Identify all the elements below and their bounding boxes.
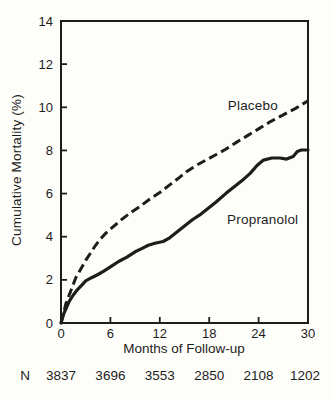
- propranolol-series-label: Propranolol: [227, 212, 298, 227]
- n-at-risk-value: 2108: [244, 368, 274, 383]
- n-row-label: N: [20, 368, 30, 383]
- y-tick-label: 12: [39, 57, 53, 72]
- y-tick-label: 4: [46, 229, 53, 244]
- mortality-figure: 061218243002468101214 Cumulative Mortali…: [0, 0, 333, 399]
- x-tick-label: 24: [251, 326, 265, 341]
- y-tick-label: 2: [46, 272, 53, 287]
- n-at-risk-value: 1202: [290, 368, 320, 383]
- x-tick-label: 12: [153, 326, 167, 341]
- x-tick-label: 6: [107, 326, 114, 341]
- n-at-risk-value: 3837: [46, 368, 76, 383]
- y-tick-label: 8: [46, 143, 53, 158]
- x-tick-label: 0: [57, 326, 64, 341]
- x-tick-label: 30: [301, 326, 315, 341]
- n-at-risk-value: 2850: [194, 368, 224, 383]
- y-tick-label: 0: [46, 316, 53, 331]
- n-at-risk-value: 3553: [145, 368, 175, 383]
- x-axis-title: Months of Follow-up: [123, 341, 245, 356]
- propranolol-curve: [61, 150, 308, 323]
- y-tick-label: 10: [39, 100, 53, 115]
- n-at-risk-value: 3696: [95, 368, 125, 383]
- placebo-series-label: Placebo: [228, 98, 278, 113]
- y-tick-label: 14: [39, 14, 53, 29]
- y-axis-title: Cumulative Mortality (%): [9, 94, 24, 246]
- plot-frame: [61, 21, 308, 323]
- plot-area: 061218243002468101214: [0, 0, 333, 360]
- x-tick-label: 18: [202, 326, 216, 341]
- y-tick-label: 6: [46, 186, 53, 201]
